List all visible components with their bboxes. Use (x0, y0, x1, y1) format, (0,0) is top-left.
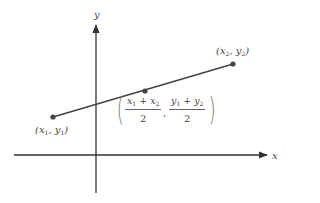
y-numerator: y1 + y2 (169, 95, 205, 110)
open-paren: ( (117, 93, 124, 125)
x-fraction: x1 + x2 2 (125, 95, 161, 124)
y-fraction: y1 + y2 2 (169, 95, 205, 124)
point-p1-label: (x1, y1) (35, 125, 68, 136)
x-numerator: x1 + x2 (125, 95, 161, 110)
close-paren: ) (209, 93, 216, 125)
point-p2 (230, 61, 235, 66)
x-denominator: 2 (125, 110, 161, 124)
y-denominator: 2 (169, 110, 205, 124)
x-axis-label: x (272, 151, 278, 161)
y-axis-label: y (94, 10, 100, 20)
midpoint-formula: ( x1 + x2 2 , y1 + y2 2 ) (117, 93, 215, 127)
point-p2-label: (x2, y2) (216, 46, 249, 57)
separator: , (163, 107, 166, 118)
point-p1 (50, 114, 55, 119)
